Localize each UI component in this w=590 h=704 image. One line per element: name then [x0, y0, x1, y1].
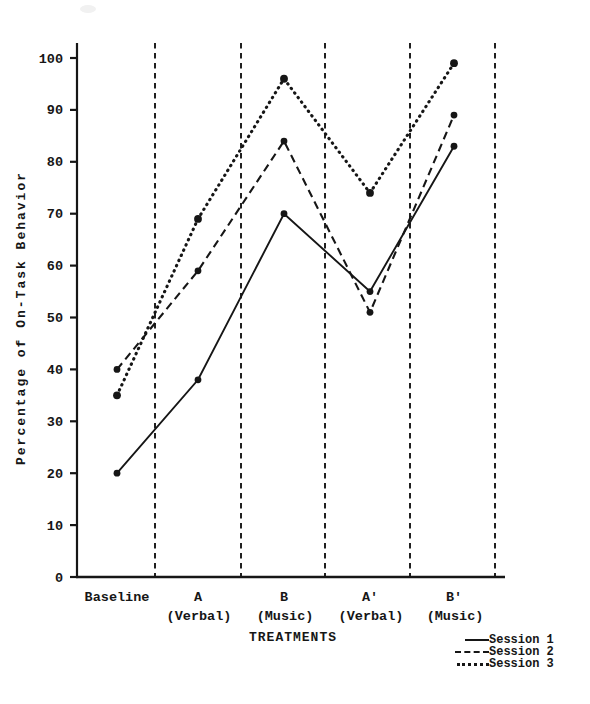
y-tick-label: 20	[47, 467, 63, 482]
x-axis-title: TREATMENTS	[249, 630, 337, 645]
y-tick-label: 50	[47, 311, 63, 326]
data-point-marker-session-2	[367, 309, 374, 316]
legend-sample-box	[455, 651, 489, 653]
y-tick-label: 90	[47, 103, 63, 118]
y-tick-label: 10	[47, 519, 63, 534]
dotted-line-icon	[457, 663, 489, 666]
series-line-session-2	[117, 115, 454, 369]
data-point-marker-session-1	[195, 376, 202, 383]
y-axis-title: Percentage of On-Task Behavior	[14, 171, 29, 465]
dashed-line-icon	[455, 651, 489, 653]
y-tick-label: 40	[47, 363, 63, 378]
y-tick-label: 70	[47, 207, 63, 222]
data-point-marker-session-1	[281, 210, 288, 217]
chart-canvas: 0102030405060708090100BaselineABA'B'(Ver…	[0, 0, 590, 704]
x-category-sublabel: (Music)	[257, 609, 314, 624]
data-point-marker-session-1	[367, 288, 374, 295]
y-tick-label: 30	[47, 415, 63, 430]
x-category-label: Baseline	[85, 590, 150, 605]
x-category-label: A'	[362, 590, 378, 605]
series-line-session-3	[117, 63, 454, 395]
x-category-sublabel: (Music)	[427, 609, 484, 624]
figure: 0102030405060708090100BaselineABA'B'(Ver…	[0, 0, 590, 704]
data-point-marker-session-3	[450, 59, 458, 67]
x-category-sublabel: (Verbal)	[339, 609, 404, 624]
legend-label: Session 3	[489, 658, 554, 670]
legend: Session 1 Session 2 Session 3	[455, 634, 554, 670]
data-point-marker-session-3	[194, 215, 202, 223]
x-category-label: B'	[446, 590, 462, 605]
data-point-marker-session-1	[114, 470, 121, 477]
x-category-label: A	[194, 590, 203, 605]
x-category-label: B	[280, 590, 288, 605]
x-category-sublabel: (Verbal)	[167, 609, 232, 624]
y-tick-label: 60	[47, 259, 63, 274]
data-point-marker-session-3	[366, 189, 374, 197]
legend-sample-box	[455, 663, 489, 666]
data-point-marker-session-3	[113, 391, 121, 399]
data-point-marker-session-2	[451, 112, 458, 119]
y-tick-label: 80	[47, 155, 63, 170]
y-tick-label: 100	[39, 52, 63, 67]
legend-item-session-3: Session 3	[455, 658, 554, 670]
solid-line-icon	[465, 639, 489, 641]
data-point-marker-session-2	[114, 366, 121, 373]
data-point-marker-session-2	[281, 138, 288, 145]
data-point-marker-session-3	[280, 75, 288, 83]
data-point-marker-session-1	[451, 143, 458, 150]
legend-sample-box	[455, 639, 489, 641]
series-line-session-1	[117, 146, 454, 473]
y-tick-label: 0	[55, 571, 63, 586]
data-point-marker-session-2	[195, 267, 202, 274]
